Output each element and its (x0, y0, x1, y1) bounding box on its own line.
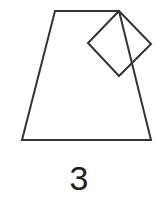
figure-number-label: 3 (0, 158, 158, 198)
rotated-square-shape (88, 11, 151, 76)
trapezoid-shape (22, 11, 151, 140)
geometry-figure (0, 0, 158, 150)
